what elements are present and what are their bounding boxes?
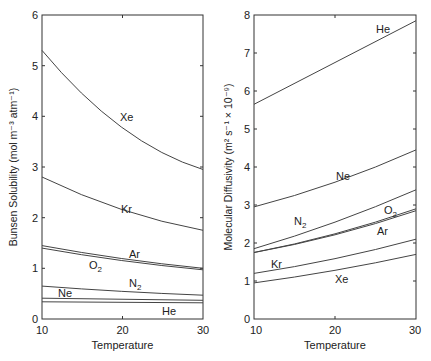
right-xtick: 10 [250,324,262,336]
series-label-xe: Xe [335,273,348,285]
left-ytick: 6 [32,9,38,21]
series-label-ar: Ar [129,248,140,260]
left-ytick: 1 [32,262,38,274]
series-label-o2: O2 [89,259,103,274]
series-label-ne: Ne [58,287,72,299]
series-line-he [254,21,416,105]
left-xtick: 20 [116,324,128,336]
series-label-n2: N2 [129,277,142,292]
left-ytick: 4 [32,110,38,122]
left-x-axis-label: Temperature [92,339,154,351]
right-ytick: 1 [244,275,250,287]
right-ytick: 8 [244,9,250,21]
series-label-ar: Ar [377,225,388,237]
series-line-xe [42,50,203,169]
series-label-he: He [162,305,176,317]
series-label-he: He [376,23,390,35]
left-xtick: 10 [36,324,48,336]
right-ytick: 5 [244,123,250,135]
series-label-kr: Kr [121,203,132,215]
left-ytick: 5 [32,60,38,72]
series-line-ar [42,246,203,269]
right-chart: 0 1 2 3 4 5 6 7 8 10 20 30 Temperature M… [222,9,421,351]
left-axes-frame [42,15,203,319]
right-x-axis-label: Temperature [304,339,366,351]
right-ytick: 6 [244,85,250,97]
left-y-axis-label: Bunsen Solubility (mol m⁻³ atm⁻¹) [7,88,19,246]
right-ytick: 2 [244,237,250,249]
series-line-n2 [254,190,416,249]
series-label-n2: N2 [294,215,307,230]
right-ytick: 7 [244,47,250,59]
series-label-xe: Xe [120,111,133,123]
series-line-he [42,302,203,303]
series-line-ne [254,150,416,207]
right-xtick: 20 [329,324,341,336]
series-label-kr: Kr [271,258,282,270]
series-label-ne: Ne [336,170,350,182]
figure: 0 1 2 3 4 5 6 10 20 30 Temperature Bunse… [0,0,431,361]
right-ytick: 4 [244,161,250,173]
left-chart: 0 1 2 3 4 5 6 10 20 30 Temperature Bunse… [7,9,209,351]
right-xtick: 30 [409,324,421,336]
left-xtick: 30 [197,324,209,336]
right-y-axis-label: Molecular Diffusivity (m² s⁻¹ × 10⁻⁹) [222,83,234,250]
left-ytick: 3 [32,161,38,173]
right-ytick: 3 [244,199,250,211]
left-ytick: 2 [32,212,38,224]
